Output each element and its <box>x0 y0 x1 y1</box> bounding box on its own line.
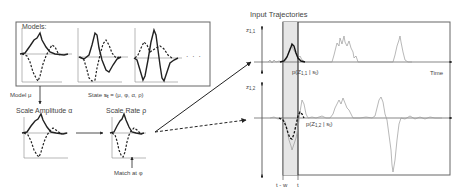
scale-amplitude-label: Scale Amplitude α <box>16 107 72 114</box>
t-label: t <box>297 182 299 188</box>
z12-label: z1,2 <box>246 84 255 92</box>
z11-label: z1,1 <box>246 27 255 35</box>
time-window <box>283 22 298 175</box>
t-minus-w-label: t - w <box>276 182 287 188</box>
scale-rate-label: Scale Rate ρ <box>106 107 146 114</box>
model-mu-label: Model μ <box>10 92 31 98</box>
state-label: State st = (μ, φ, α, ρ) <box>88 92 144 100</box>
input-trajectories-title: Input Trajectories <box>250 11 308 19</box>
scale-rate-panel <box>110 114 146 158</box>
p-z11-label: p(Z1,1 | st) <box>292 69 318 77</box>
model-panel-3 <box>134 28 182 82</box>
diagram-canvas <box>0 0 459 194</box>
more-models-ellipsis: · · · <box>186 53 202 60</box>
model-panel-2 <box>78 28 128 82</box>
trajectory-box <box>283 22 450 175</box>
match-at-phi-label: Match at φ <box>114 170 143 176</box>
model-panel-1 <box>20 28 72 82</box>
state-symbol: st <box>104 92 109 98</box>
models-title: Models: <box>22 23 47 30</box>
time-axis-label: Time <box>430 70 443 76</box>
scale-amplitude-panel <box>22 114 68 158</box>
p-z12-label: p(Z1,2 | st) <box>306 121 332 129</box>
